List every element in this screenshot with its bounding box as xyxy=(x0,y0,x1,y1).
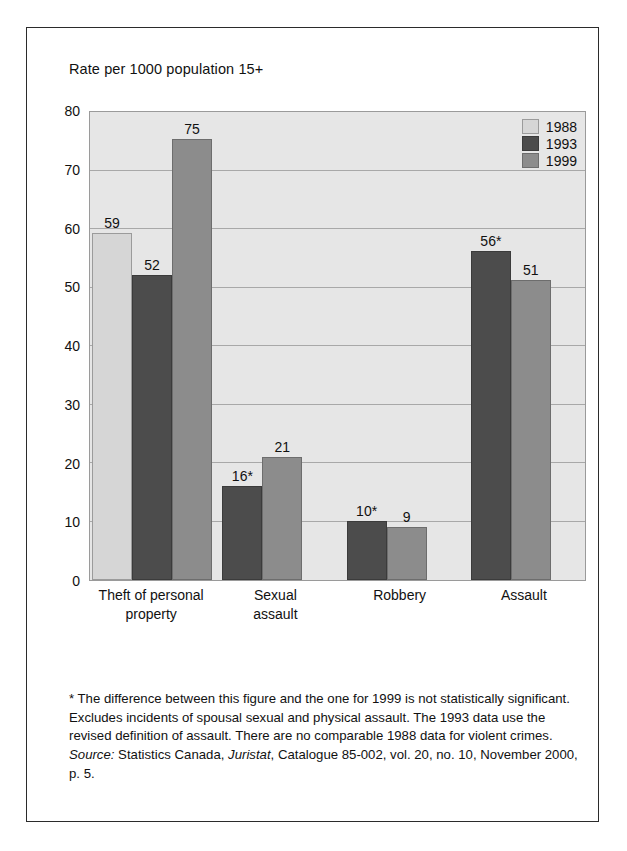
bar-value-label: 51 xyxy=(523,262,539,278)
source-part-1: Statistics Canada, xyxy=(114,747,228,762)
y-axis-tick-label: 50 xyxy=(64,279,80,295)
legend-swatch-1988 xyxy=(522,119,539,134)
y-axis-tick-label: 40 xyxy=(64,338,80,354)
bar-value-label: 21 xyxy=(275,439,291,455)
x-axis-label-line: assault xyxy=(253,606,297,622)
bar-group: 595275 xyxy=(90,112,214,580)
bar-value-label: 16* xyxy=(232,468,253,484)
x-axis-label: Theft of personalproperty xyxy=(89,586,213,624)
bar-group: 16*21 xyxy=(214,112,338,580)
x-axis-labels: Theft of personalpropertySexualassaultRo… xyxy=(89,586,586,636)
bar-value-label: 52 xyxy=(144,257,160,273)
bar-1999: 21 xyxy=(262,457,302,580)
y-axis-tick-label: 10 xyxy=(64,514,80,530)
bar-value-label: 56* xyxy=(480,233,501,249)
bar-1993: 16* xyxy=(222,486,262,580)
y-axis-tick-label: 20 xyxy=(64,456,80,472)
bar-value-label: 59 xyxy=(104,215,120,231)
legend-label-1999: 1999 xyxy=(546,154,577,168)
x-axis-label: Robbery xyxy=(338,586,462,605)
y-axis-tick-label: 0 xyxy=(72,573,80,589)
bar-1993: 52 xyxy=(132,275,172,581)
x-axis-label: Assault xyxy=(462,586,586,605)
bar-value-label: 75 xyxy=(184,121,200,137)
bar-value-label: 10* xyxy=(356,503,377,519)
figure-notes: * The difference between this figure and… xyxy=(69,690,579,784)
legend-swatch-1993 xyxy=(522,136,539,151)
bar-group: 56*51 xyxy=(463,112,586,580)
y-axis-tick-label: 30 xyxy=(64,397,80,413)
source-prefix: Source: xyxy=(69,747,114,762)
plot-wrapper: 59527516*2110*956*51 198819931999 010203… xyxy=(89,111,586,581)
legend-item-1988: 1988 xyxy=(522,119,577,134)
source-publication: Juristat xyxy=(228,747,271,762)
legend-label-1993: 1993 xyxy=(546,137,577,151)
legend-item-1999: 1999 xyxy=(522,153,577,168)
plot-area: 59527516*2110*956*51 198819931999 xyxy=(89,111,586,581)
bar-1993: 56* xyxy=(471,251,511,580)
x-axis-label-line: Sexual xyxy=(254,587,297,603)
bar-1999: 9 xyxy=(387,527,427,580)
figure-frame: Rate per 1000 population 15+ 59527516*21… xyxy=(26,27,599,822)
legend-item-1993: 1993 xyxy=(522,136,577,151)
x-axis-label-line: Assault xyxy=(501,587,547,603)
bar-1999: 75 xyxy=(172,139,212,580)
y-axis-tick-label: 70 xyxy=(64,162,80,178)
source-text: Source: Statistics Canada, Juristat, Cat… xyxy=(69,746,579,783)
y-axis-tick-label: 80 xyxy=(64,103,80,119)
y-axis-tick-label: 60 xyxy=(64,221,80,237)
bar-value-label: 9 xyxy=(403,509,411,525)
footnote-text: * The difference between this figure and… xyxy=(69,690,579,746)
legend-label-1988: 1988 xyxy=(546,120,577,134)
chart-title: Rate per 1000 population 15+ xyxy=(69,61,263,77)
x-axis-label-line: property xyxy=(125,606,176,622)
bar-1988: 59 xyxy=(92,233,132,580)
bar-1993: 10* xyxy=(347,521,387,580)
x-axis-label-line: Theft of personal xyxy=(99,587,204,603)
x-axis-label: Sexualassault xyxy=(213,586,337,624)
bar-1999: 51 xyxy=(511,280,551,580)
bar-group: 10*9 xyxy=(339,112,463,580)
chart-legend: 198819931999 xyxy=(522,119,577,168)
legend-swatch-1999 xyxy=(522,153,539,168)
x-axis-label-line: Robbery xyxy=(373,587,426,603)
